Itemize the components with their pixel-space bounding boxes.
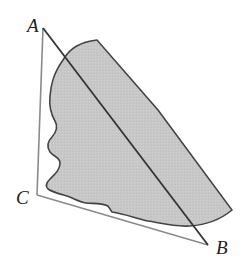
vertex-label-c: C bbox=[16, 187, 29, 208]
vertex-label-a: A bbox=[25, 15, 39, 36]
triangle-diagram: A B C bbox=[0, 0, 249, 271]
vertex-label-b: B bbox=[216, 237, 228, 258]
edge-ac bbox=[37, 28, 43, 195]
